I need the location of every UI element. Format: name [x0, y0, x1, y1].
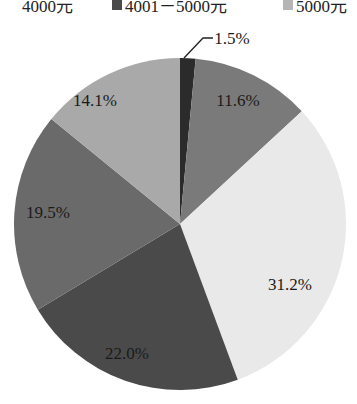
- slice-label: 11.6%: [216, 91, 259, 110]
- slice-label: 22.0%: [105, 344, 149, 363]
- pie-slices: [14, 58, 346, 390]
- slice-label: 31.2%: [268, 275, 312, 294]
- pie-chart: 1.5%11.6%31.2%22.0%19.5%14.1%: [0, 0, 357, 404]
- slice-label: 19.5%: [26, 203, 70, 222]
- slice-label: 14.1%: [73, 91, 117, 110]
- slice-label: 1.5%: [214, 29, 249, 48]
- leader-line: [184, 38, 213, 58]
